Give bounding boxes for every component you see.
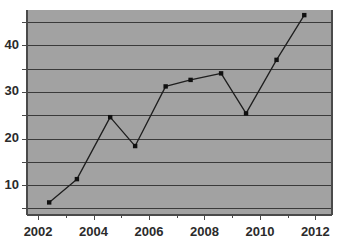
y-axis-tick-label: 30 — [5, 83, 19, 98]
plot-area-background — [27, 10, 332, 215]
x-axis-tick-label: 2002 — [24, 224, 53, 239]
x-axis-tick-label: 2008 — [190, 224, 219, 239]
data-point-marker — [75, 177, 79, 181]
y-axis-tick-label: 10 — [5, 177, 19, 192]
data-point-marker — [47, 200, 51, 204]
line-chart: 10203040 200220042006200820102012 — [0, 0, 350, 247]
y-axis-tick-label: 40 — [5, 37, 19, 52]
data-point-marker — [133, 144, 137, 148]
x-axis-tick-labels: 200220042006200820102012 — [24, 224, 330, 239]
y-axis-tick-labels: 10203040 — [5, 37, 19, 192]
x-axis-tick-label: 2006 — [135, 224, 164, 239]
chart-canvas: 10203040 200220042006200820102012 — [0, 0, 350, 247]
y-axis-tick-label: 20 — [5, 130, 19, 145]
data-point-marker — [163, 84, 167, 88]
x-axis-tick-label: 2012 — [301, 224, 330, 239]
data-point-marker — [302, 13, 306, 17]
data-point-marker — [274, 58, 278, 62]
x-axis-tick-label: 2004 — [79, 224, 109, 239]
data-point-marker — [188, 78, 192, 82]
data-point-marker — [108, 115, 112, 119]
data-point-marker — [244, 111, 248, 115]
data-point-marker — [219, 71, 223, 75]
x-axis-tick-label: 2010 — [245, 224, 274, 239]
